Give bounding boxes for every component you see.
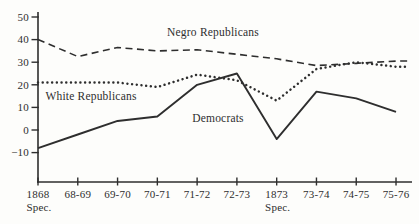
x-tick-label: 75-76: [383, 188, 410, 200]
y-tick-label: 30: [18, 56, 30, 68]
y-tick-label: −10: [11, 146, 29, 158]
x-tick-label: 72-73: [224, 188, 251, 200]
x-tick-sublabel: Spec.: [26, 201, 51, 213]
y-tick-label: 10: [18, 101, 30, 113]
chart-canvas: 50403020100−101868Spec.68-6969-7070-7171…: [0, 0, 419, 224]
x-tick-label: 71-72: [184, 188, 211, 200]
x-tick-label: 73-74: [303, 188, 330, 200]
x-tick-label: 70-71: [144, 188, 171, 200]
x-tick-label: 68-69: [64, 188, 91, 200]
series-label-negro-republicans: Negro Republicans: [167, 26, 259, 39]
series-label-white-republicans: White Republicans: [45, 90, 137, 103]
x-tick-label: 1868: [27, 188, 50, 200]
series-label-democrats: Democrats: [192, 112, 244, 124]
y-tick-label: 0: [23, 124, 29, 136]
scanned-line-chart-figure: 50403020100−101868Spec.68-6969-7070-7171…: [0, 0, 419, 224]
y-tick-label: 40: [18, 33, 30, 45]
x-tick-label: 1873: [265, 188, 288, 200]
x-tick-label: 69-70: [104, 188, 131, 200]
y-tick-label: 50: [18, 11, 30, 23]
y-tick-label: 20: [18, 79, 30, 91]
x-tick-sublabel: Spec.: [265, 201, 290, 213]
x-tick-label: 74-75: [343, 188, 370, 200]
